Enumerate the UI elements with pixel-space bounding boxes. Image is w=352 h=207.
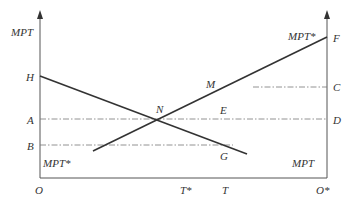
point-label-E: E <box>219 104 227 116</box>
point-label-H: H <box>25 71 35 83</box>
diagram-canvas: MPT H A B MPT* N M E G MPT* F C D MPT O … <box>0 0 352 207</box>
curve-label-mpt-star-right: MPT* <box>287 30 316 42</box>
point-label-A: A <box>26 114 34 126</box>
point-label-C: C <box>333 81 341 93</box>
curve-label-mpt-star-left: MPT* <box>42 157 71 169</box>
point-label-G: G <box>220 150 228 162</box>
origin-label-O-star: O* <box>316 184 330 196</box>
mpt-curve <box>40 76 247 154</box>
mpt-star-curve <box>93 37 327 151</box>
right-axis-arrow-icon <box>324 10 330 19</box>
point-label-N: N <box>155 103 164 115</box>
origin-label-O: O <box>35 184 43 196</box>
point-label-B: B <box>27 140 34 152</box>
curve-label-mpt-right: MPT <box>291 157 315 169</box>
left-axis-title: MPT <box>10 26 34 38</box>
x-label-T: T <box>222 184 229 196</box>
point-label-D: D <box>332 114 341 126</box>
left-axis-arrow-icon <box>37 10 43 19</box>
x-label-T-star: T* <box>180 184 192 196</box>
point-label-F: F <box>332 32 340 44</box>
point-label-M: M <box>205 78 216 90</box>
